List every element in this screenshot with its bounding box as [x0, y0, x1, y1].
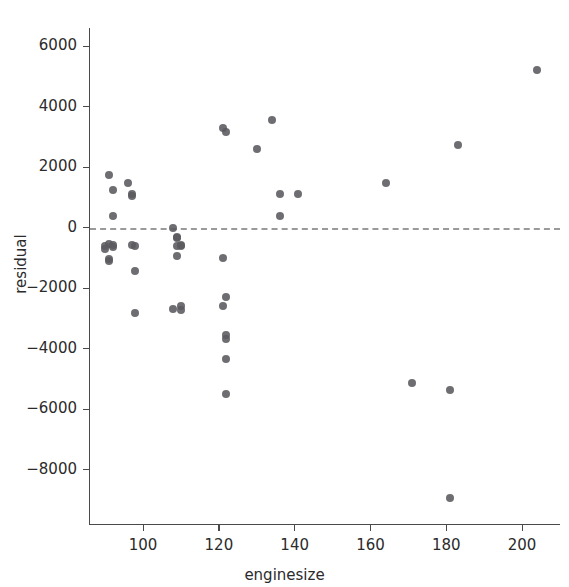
data-point [131, 242, 139, 250]
data-point [222, 335, 230, 343]
y-tick-label: 4000 [39, 97, 77, 115]
x-tick-label: 200 [508, 536, 537, 554]
data-point [222, 293, 230, 301]
data-point [105, 257, 113, 265]
x-tick-mark [446, 525, 447, 531]
data-point [173, 252, 181, 260]
y-tick-label: −4000 [26, 339, 77, 357]
y-tick-mark [83, 348, 89, 349]
x-axis-label: enginesize [0, 566, 569, 584]
data-point [109, 243, 117, 251]
data-point [222, 355, 230, 363]
data-point [408, 379, 416, 387]
data-point [276, 212, 284, 220]
y-tick-label: −2000 [26, 278, 77, 296]
y-axis-label: residual [12, 229, 30, 299]
x-tick-label: 100 [129, 536, 158, 554]
y-tick-label: −6000 [26, 399, 77, 417]
x-tick-label: 180 [432, 536, 461, 554]
y-tick-mark [83, 46, 89, 47]
x-tick-mark [522, 525, 523, 531]
x-tick-mark [370, 525, 371, 531]
data-point [382, 179, 390, 187]
x-tick-label: 120 [205, 536, 234, 554]
y-tick-mark [83, 167, 89, 168]
data-point [177, 306, 185, 314]
data-point [177, 241, 185, 249]
data-point [219, 254, 227, 262]
data-point [128, 192, 136, 200]
y-tick-mark [83, 227, 89, 228]
data-point [124, 179, 132, 187]
data-point [219, 302, 227, 310]
data-point [169, 224, 177, 232]
y-axis-label-wrapper: residual [8, 0, 30, 587]
x-tick-label: 160 [356, 536, 385, 554]
y-tick-mark [83, 409, 89, 410]
data-point [276, 190, 284, 198]
data-point [533, 66, 541, 74]
data-point [109, 212, 117, 220]
data-point [131, 267, 139, 275]
plot-area [90, 28, 560, 524]
x-tick-mark [218, 525, 219, 531]
y-tick-label: 2000 [39, 157, 77, 175]
data-point [294, 190, 302, 198]
data-point [268, 116, 276, 124]
x-tick-label: 140 [280, 536, 309, 554]
x-tick-mark [143, 525, 144, 531]
y-tick-label: −8000 [26, 460, 77, 478]
data-point [446, 494, 454, 502]
data-point [454, 141, 462, 149]
y-tick-label: 0 [67, 218, 77, 236]
data-point [101, 245, 109, 253]
y-tick-label: 6000 [39, 36, 77, 54]
scatter-plot-figure: 6000400020000−2000−4000−6000−8000 100120… [0, 0, 569, 587]
data-point [105, 171, 113, 179]
y-tick-mark [83, 469, 89, 470]
y-tick-mark [83, 106, 89, 107]
data-point [222, 128, 230, 136]
zero-reference-line [90, 228, 560, 230]
y-tick-mark [83, 288, 89, 289]
data-point [222, 390, 230, 398]
data-point [253, 145, 261, 153]
data-point [446, 386, 454, 394]
x-axis-line [89, 524, 560, 525]
x-tick-mark [294, 525, 295, 531]
data-point [131, 309, 139, 317]
data-point [109, 186, 117, 194]
